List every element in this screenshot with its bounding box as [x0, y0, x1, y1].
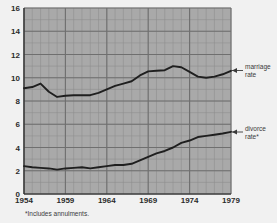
chart-figure: 0246810121416 195419591964196919741979 m… [0, 0, 277, 223]
divorce-label-line1: divorce [245, 125, 266, 132]
y-tick-label: 4 [16, 144, 21, 153]
y-tick-label: 14 [11, 27, 20, 36]
marriage-label-line1: marriage [245, 63, 271, 71]
x-tick-label: 1964 [98, 196, 116, 205]
x-tick-label: 1979 [222, 196, 240, 205]
y-tick-label: 12 [11, 51, 20, 60]
y-tick-label: 8 [16, 97, 21, 106]
y-tick-label: 2 [16, 167, 21, 176]
x-tick-label: 1959 [57, 196, 75, 205]
x-tick-label: 1969 [139, 196, 157, 205]
x-tick-label: 1954 [15, 196, 33, 205]
y-tick-label: 6 [16, 120, 21, 129]
x-tick-label: 1974 [181, 196, 199, 205]
divorce-label-line2: rate* [245, 133, 259, 140]
marriage-label-line2: rate [245, 71, 257, 78]
chart-footnote: *Includes annulments. [25, 210, 89, 217]
y-tick-label: 16 [11, 4, 20, 13]
y-tick-label: 10 [11, 74, 20, 83]
line-chart-svg: 0246810121416 195419591964196919741979 m… [0, 0, 277, 223]
